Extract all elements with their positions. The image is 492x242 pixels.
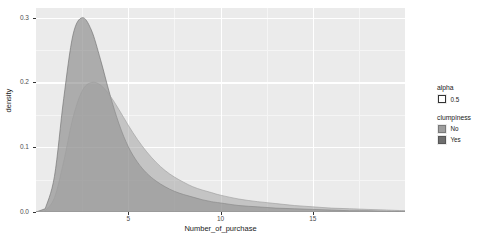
x-tick-mark xyxy=(128,212,129,215)
clumpiness-legend: clumpinessNoYes xyxy=(437,114,489,146)
y-tick-label: 0.0 xyxy=(3,208,29,215)
legend-key xyxy=(437,124,447,134)
legend-key xyxy=(437,94,447,104)
legend-item[interactable]: Yes xyxy=(437,134,489,145)
legend-swatch-icon xyxy=(438,136,446,144)
y-tick-label: 0.1 xyxy=(3,143,29,150)
x-tick-label: 5 xyxy=(118,215,138,222)
legend-title: alpha xyxy=(437,84,489,91)
legend-area: alpha0.5clumpinessNoYes xyxy=(437,84,489,154)
legend-swatch-icon xyxy=(438,95,446,103)
legend-label: No xyxy=(451,125,459,132)
density-plot-figure: 0.00.10.20.3 51015 Number_of_purchase de… xyxy=(0,0,492,242)
legend-key xyxy=(437,135,447,145)
density-area-no xyxy=(36,82,405,212)
legend-label: 0.5 xyxy=(451,96,460,103)
y-axis-title: density xyxy=(4,71,13,131)
x-tick-label: 10 xyxy=(211,215,231,222)
y-tick-mark xyxy=(33,147,36,148)
legend-title: clumpiness xyxy=(437,114,489,121)
alpha-legend: alpha0.5 xyxy=(437,84,489,105)
x-tick-label: 15 xyxy=(303,215,323,222)
x-tick-mark xyxy=(221,212,222,215)
y-tick-mark xyxy=(33,82,36,83)
legend-label: Yes xyxy=(451,136,461,143)
y-tick-mark xyxy=(33,18,36,19)
legend-item[interactable]: No xyxy=(437,123,489,134)
density-curves xyxy=(36,8,405,212)
y-tick-label: 0.3 xyxy=(3,14,29,21)
x-tick-mark xyxy=(313,212,314,215)
plot-panel xyxy=(36,8,405,212)
legend-item[interactable]: 0.5 xyxy=(437,94,489,105)
x-axis-title: Number_of_purchase xyxy=(36,224,405,233)
legend-swatch-icon xyxy=(438,125,446,133)
y-tick-mark xyxy=(33,212,36,213)
